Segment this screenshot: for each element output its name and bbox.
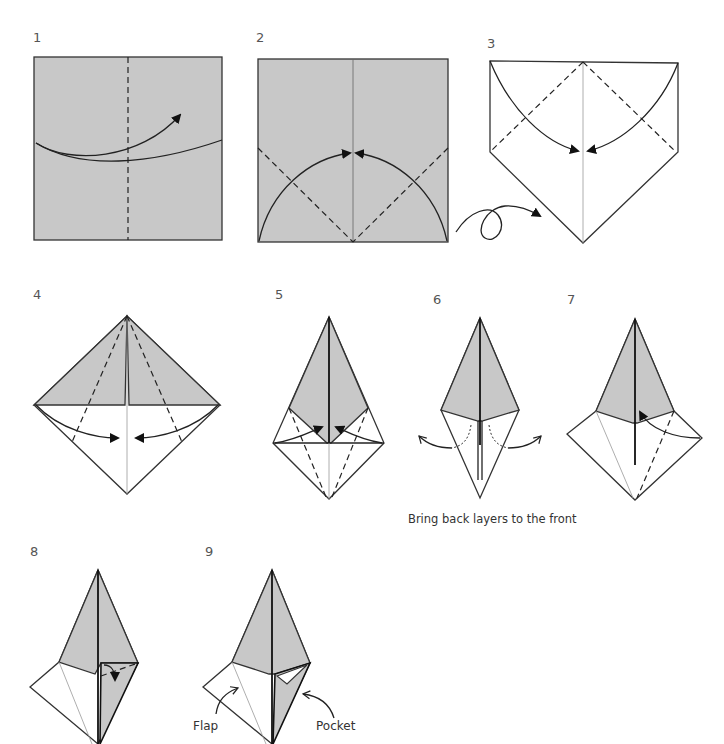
turn-over-icon xyxy=(456,206,540,239)
origami-diagram: 1 2 3 4 5 6 7 8 9 xyxy=(0,0,724,744)
step-6-figure xyxy=(419,318,541,498)
step-5-figure xyxy=(273,317,384,499)
pocket-label: Pocket xyxy=(316,719,355,733)
pocket-pointer-icon xyxy=(303,694,334,718)
step-7-figure xyxy=(567,319,702,500)
step-4-figure xyxy=(34,316,220,494)
diagram-artwork xyxy=(0,0,724,744)
step-9-figure xyxy=(203,570,334,744)
flap-label: Flap xyxy=(193,719,218,733)
step-8-figure xyxy=(30,570,138,744)
step-2-figure xyxy=(258,59,448,242)
step-3-figure xyxy=(490,61,678,243)
unfold-arrow-right-icon xyxy=(508,436,541,448)
unfold-arrow-left-icon xyxy=(419,436,452,448)
step-6-caption: Bring back layers to the front xyxy=(408,512,577,526)
step-1-figure xyxy=(34,57,222,240)
